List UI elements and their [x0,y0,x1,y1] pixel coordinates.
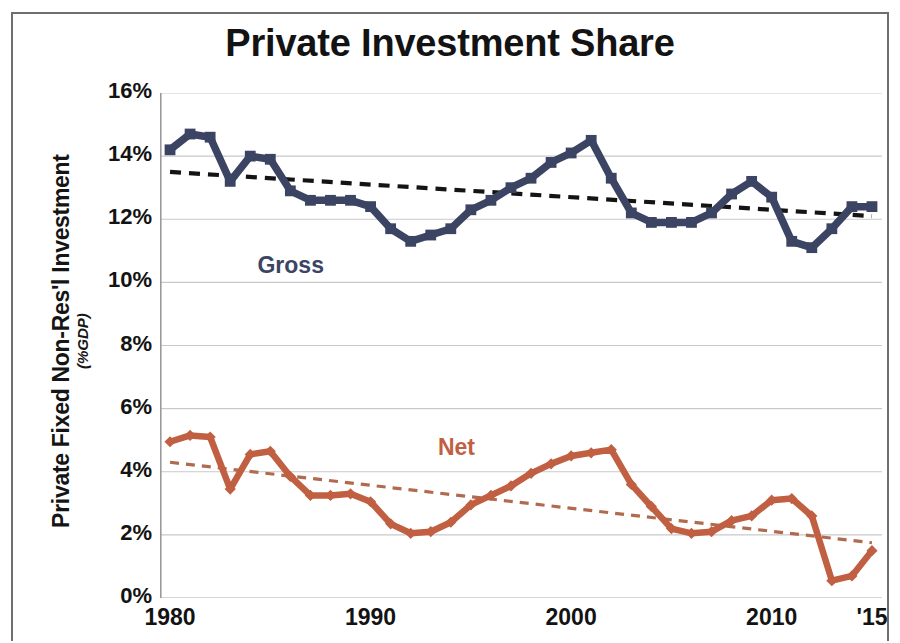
series-line-gross [170,134,872,248]
data-point-gross [666,217,677,228]
data-point-gross [506,182,517,193]
data-point-gross [566,148,577,159]
series-label-gross: Gross [257,252,323,279]
x-axis-tick-label: '15 [856,604,887,631]
y-axis-tick-label: 6% [86,394,152,420]
chart-canvas [160,93,882,598]
data-point-gross [646,217,657,228]
y-axis-tick-label: 8% [86,331,152,357]
y-axis-tick-label: 0% [86,583,152,609]
data-point-gross [305,195,316,206]
data-point-gross [465,204,476,215]
data-point-gross [385,223,396,234]
data-point-gross [546,157,557,168]
x-axis-tick-label: 2010 [746,604,797,631]
x-axis-tick-label: 1990 [345,604,396,631]
y-axis-tick-label: 12% [86,204,152,230]
x-axis-tick-label: 1980 [144,604,195,631]
x-axis-tick-labels: 1980199020002010'15 [160,604,882,643]
data-point-gross [867,201,878,212]
y-axis-tick-label: 14% [86,141,152,167]
data-point-gross [826,223,837,234]
data-point-gross [847,201,858,212]
data-point-net [586,447,597,458]
data-point-gross [205,132,216,143]
data-point-gross [706,208,717,219]
data-point-gross [526,173,537,184]
plot-area: GrossNet [160,93,882,598]
data-point-gross [245,151,256,162]
data-point-gross [726,189,737,200]
data-point-gross [766,192,777,203]
data-point-gross [806,242,817,253]
y-axis-tick-label: 16% [86,78,152,104]
data-point-gross [265,154,276,165]
y-axis-tick-label: 2% [86,520,152,546]
data-point-gross [606,173,617,184]
data-point-gross [225,176,236,187]
data-point-gross [445,223,456,234]
x-axis-tick-label: 2000 [546,604,597,631]
data-point-gross [786,236,797,247]
data-point-gross [405,236,416,247]
data-point-gross [365,201,376,212]
data-point-gross [626,208,637,219]
y-axis-tick-labels: 0%2%4%6%8%10%12%14%16% [84,93,152,598]
data-point-gross [425,230,436,241]
chart-screenshot: Private Investment Share Private Fixed N… [0,0,900,643]
chart-title: Private Investment Share [0,22,900,65]
y-axis-tick-label: 10% [86,267,152,293]
data-point-gross [486,195,497,206]
data-point-gross [686,217,697,228]
y-axis-tick-label: 4% [86,457,152,483]
data-point-gross [345,195,356,206]
data-point-gross [165,144,176,155]
series-label-net: Net [438,434,475,461]
data-point-gross [285,185,296,196]
data-point-gross [185,129,196,140]
data-point-gross [325,195,336,206]
data-point-gross [746,176,757,187]
data-point-net [325,490,336,501]
data-point-gross [586,135,597,146]
series-line-net [170,435,872,580]
